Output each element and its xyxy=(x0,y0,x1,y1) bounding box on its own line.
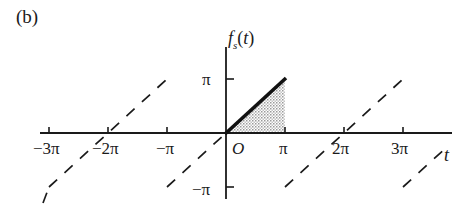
dashed-ramp-right-partial xyxy=(403,146,448,187)
dashed-ramp-left-partial xyxy=(43,187,49,203)
plot-canvas xyxy=(0,0,468,213)
figure-panel: (b) fs(t) −3π −2π −π O π 2π 3π t π −π xyxy=(0,0,468,213)
dashed-periodic-extension xyxy=(43,79,448,203)
